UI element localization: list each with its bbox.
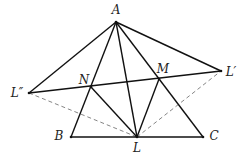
point-L1 [220,70,223,73]
segment-A-L [116,22,137,137]
point-N [90,86,93,89]
segment-L2-L [29,93,137,137]
point-L2 [28,92,31,95]
label-N: N [78,73,90,87]
label-B: B [54,129,64,143]
label-M: M [156,62,170,76]
point-B [70,136,73,139]
point-C [202,136,205,139]
label-A: A [111,3,121,17]
diagram-svg: ABCLMNL′L″ [0,0,248,155]
segment-A-L2 [29,22,116,93]
label-C: C [209,129,218,143]
label-L: L [132,141,141,155]
point-L [136,136,139,139]
point-A [115,21,118,24]
segment-A-B [71,22,116,137]
label-L1: L′ [225,65,237,79]
label-L2: L″ [10,86,24,100]
segment-N-L [91,87,137,137]
point-M [158,78,161,81]
geometry-diagram: ABCLMNL′L″ [0,0,248,155]
